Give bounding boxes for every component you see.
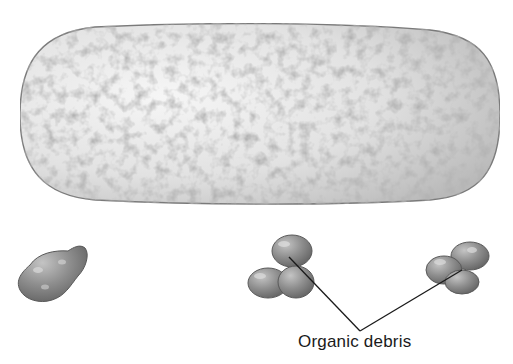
debris-highlight xyxy=(41,285,49,290)
rod-body xyxy=(20,24,500,205)
large-rod-object xyxy=(20,24,500,205)
leader-line-right xyxy=(360,270,462,331)
organic-debris-label: Organic debris xyxy=(298,332,411,352)
debris-highlight xyxy=(254,273,266,279)
debris-lobe xyxy=(278,266,314,298)
debris-clump-center xyxy=(248,235,314,298)
debris-highlight xyxy=(434,259,446,265)
debris-lobe xyxy=(445,270,479,294)
debris-highlight xyxy=(278,241,290,247)
diagram-canvas xyxy=(0,0,513,364)
debris-clump-left xyxy=(18,246,87,301)
debris-body xyxy=(18,246,87,301)
debris-highlight xyxy=(58,260,66,265)
debris-highlight xyxy=(467,247,477,253)
debris-highlight xyxy=(33,267,43,273)
debris-lobe xyxy=(272,235,312,267)
